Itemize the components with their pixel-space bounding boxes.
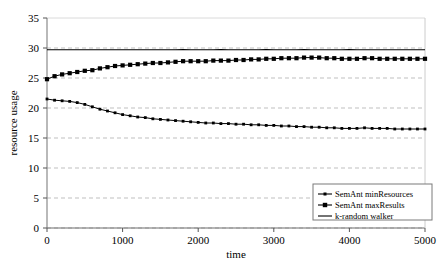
data-point <box>143 62 147 66</box>
data-point <box>241 58 245 62</box>
x-axis-title: time <box>226 248 246 260</box>
data-point <box>257 123 260 126</box>
data-point <box>46 98 49 101</box>
data-point <box>174 119 177 122</box>
y-tick-label-0: 0 <box>34 222 40 234</box>
data-point <box>332 56 336 60</box>
data-point <box>167 119 170 122</box>
data-point <box>378 127 381 130</box>
data-point <box>196 59 200 63</box>
data-point <box>279 56 283 60</box>
data-point <box>151 61 155 65</box>
y-axis-title: resource usage <box>7 90 19 155</box>
data-point <box>136 116 139 119</box>
y-tick-label-15: 15 <box>28 132 40 144</box>
data-point <box>234 58 238 62</box>
data-point <box>60 72 64 76</box>
data-point <box>302 56 306 60</box>
resource-usage-line-chart: 05101520253035 010002000300040005000 tim… <box>0 0 444 268</box>
x-tick-label-1000: 1000 <box>112 234 135 246</box>
data-point <box>68 71 72 75</box>
data-point <box>226 59 230 63</box>
x-tick-label-0: 0 <box>44 234 50 246</box>
data-point <box>113 64 117 68</box>
y-tick-label-25: 25 <box>28 72 40 84</box>
data-point <box>265 124 268 127</box>
y-tick-label-35: 35 <box>28 12 40 24</box>
data-point <box>294 56 298 60</box>
data-point <box>91 105 94 108</box>
data-point <box>61 99 64 102</box>
data-point <box>249 57 253 61</box>
data-point <box>272 124 275 127</box>
data-point <box>393 57 397 61</box>
data-point <box>136 62 140 66</box>
data-point <box>182 120 185 123</box>
data-point <box>75 70 79 74</box>
data-point <box>98 66 102 70</box>
data-point <box>415 57 419 61</box>
data-point <box>310 56 314 60</box>
data-point <box>408 57 412 61</box>
data-point <box>159 118 162 121</box>
legend-marker-swatch <box>323 203 327 207</box>
x-tick-label-2000: 2000 <box>187 234 210 246</box>
data-point <box>189 120 192 123</box>
data-point <box>363 126 366 129</box>
data-point <box>242 123 245 126</box>
data-point <box>83 103 86 106</box>
data-point <box>121 113 124 116</box>
data-point <box>325 56 329 60</box>
data-point <box>83 69 87 73</box>
data-point <box>219 59 223 63</box>
legend-label: k-random walker <box>335 211 393 221</box>
data-point <box>340 127 343 130</box>
data-point <box>53 99 56 102</box>
data-point <box>378 57 382 61</box>
y-tick-label-10: 10 <box>28 162 40 174</box>
data-point <box>370 56 374 60</box>
chart-legend[interactable]: SemAnt minResourcesSemAnt maxResultsk-ra… <box>313 184 432 221</box>
data-point <box>325 126 328 129</box>
data-point <box>227 122 230 125</box>
data-point <box>151 117 154 120</box>
legend-label: SemAnt maxResults <box>335 200 405 210</box>
x-tick-label-5000: 5000 <box>414 234 437 246</box>
data-point <box>348 127 351 130</box>
data-point <box>362 56 366 60</box>
data-point <box>424 128 427 131</box>
data-point <box>204 122 207 125</box>
data-point <box>423 57 427 61</box>
data-point <box>114 111 117 114</box>
data-point <box>166 60 170 64</box>
data-point <box>121 63 125 67</box>
data-point <box>347 57 351 61</box>
data-point <box>105 65 109 69</box>
data-point <box>386 127 389 130</box>
data-point <box>99 108 102 111</box>
x-tick-label-3000: 3000 <box>263 234 286 246</box>
data-point <box>287 56 291 60</box>
data-point <box>408 128 411 131</box>
data-point <box>416 128 419 131</box>
data-point <box>393 128 396 131</box>
data-point <box>385 57 389 61</box>
data-point <box>211 59 215 63</box>
data-point <box>52 74 56 78</box>
legend-marker-swatch <box>324 193 327 196</box>
data-point <box>264 57 268 61</box>
data-point <box>204 59 208 63</box>
data-point <box>45 77 49 81</box>
data-point <box>333 126 336 129</box>
data-point <box>144 116 147 119</box>
data-point <box>250 123 253 126</box>
data-point <box>189 59 193 63</box>
data-point <box>295 125 298 128</box>
data-point <box>272 57 276 61</box>
data-point <box>303 125 306 128</box>
data-point <box>257 57 261 61</box>
data-point <box>128 63 132 67</box>
x-tick-label-4000: 4000 <box>338 234 361 246</box>
data-point <box>401 128 404 131</box>
data-point <box>212 122 215 125</box>
